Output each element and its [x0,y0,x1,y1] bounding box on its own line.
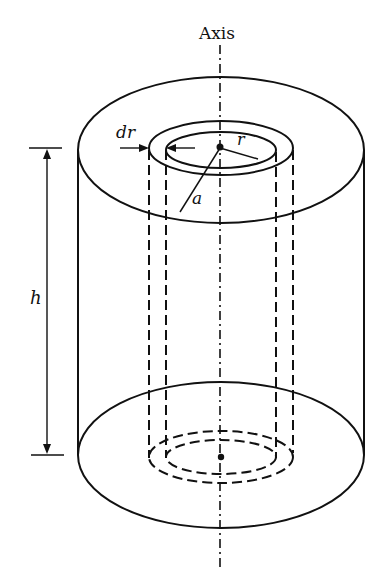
bottom-center-dot [218,454,224,460]
r-label: r [237,130,245,149]
dr-left-arrowhead-icon [139,144,149,152]
top-center-dot [217,144,224,151]
a-label: a [192,188,202,208]
h-down-arrowhead-icon [43,444,51,454]
axis-label: Axis [199,23,235,43]
h-label: h [30,287,42,308]
h-up-arrowhead-icon [43,149,51,159]
radius-r-line [220,148,258,159]
dr-label: dr [116,122,135,142]
cylinder-diagram [0,0,384,582]
